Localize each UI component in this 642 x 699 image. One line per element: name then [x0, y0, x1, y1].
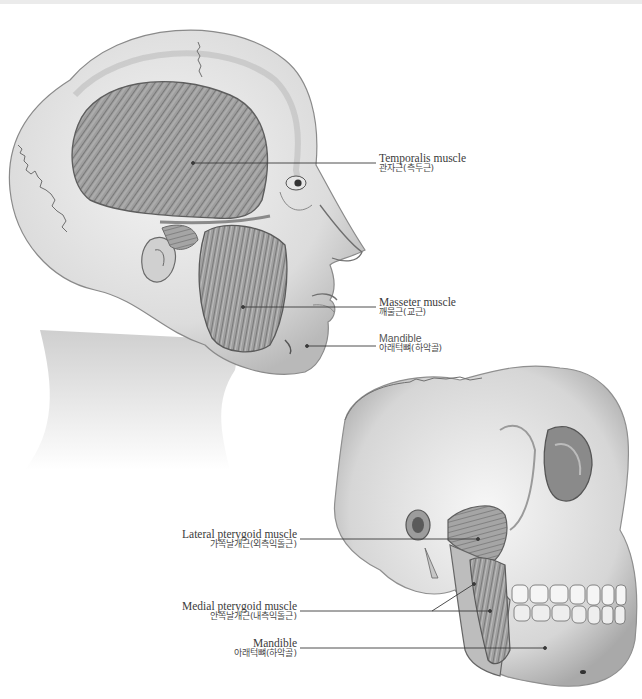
label-medial-pterygoid-ko: 안쪽날개근(내측익돌근): [182, 612, 297, 621]
anatomy-illustration: [0, 0, 642, 699]
label-mandible-head-ko: 아래턱뼈(하악골): [379, 344, 442, 353]
label-masseter-ko: 깨물근(교근): [379, 308, 456, 317]
head-illustration: [9, 30, 365, 470]
label-medial-pterygoid: Medial pterygoid muscle 안쪽날개근(내측익돌근): [182, 600, 297, 622]
skull-illustration: [334, 366, 636, 686]
label-temporalis: Temporalis muscle 관자근(측두근): [379, 152, 466, 174]
label-mandible-head: Mandible 아래턱뼈(하악골): [379, 333, 442, 353]
label-temporalis-ko: 관자근(측두근): [379, 164, 466, 173]
label-masseter: Masseter muscle 깨물근(교근): [379, 296, 456, 318]
label-mandible-skull: Mandible 아래턱뼈(하악골): [234, 637, 297, 659]
label-lateral-pterygoid-ko: 가쪽날개근(외측익돌근): [182, 540, 297, 549]
label-mandible-skull-ko: 아래턱뼈(하악골): [234, 649, 297, 658]
label-lateral-pterygoid: Lateral pterygoid muscle 가쪽날개근(외측익돌근): [182, 528, 297, 550]
